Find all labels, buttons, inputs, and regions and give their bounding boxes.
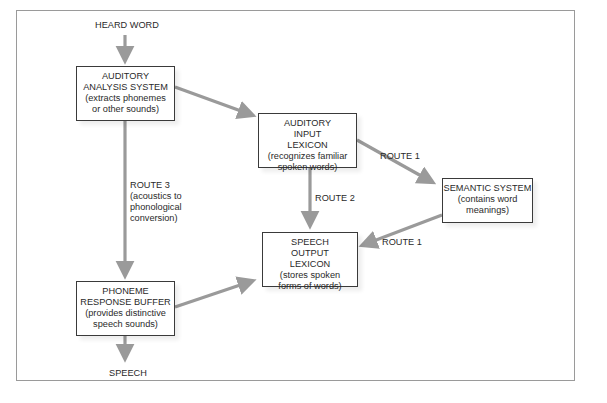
- auditory-input-lexicon-box: AUDITORY INPUT LEXICON (recognizes famil…: [258, 113, 357, 168]
- arrow-analysis-to-input-lexicon: [175, 87, 252, 115]
- speech-label: SPEECH: [109, 368, 147, 379]
- route1-lower-label: ROUTE 1: [382, 237, 422, 248]
- box-description: (extracts phonemes or other sounds): [77, 93, 174, 115]
- phoneme-response-buffer-box: PHONEME RESPONSE BUFFER (provides distin…: [76, 281, 175, 336]
- box-description: (stores spoken forms of words): [263, 270, 357, 292]
- arrow-buffer-to-output: [175, 281, 252, 307]
- semantic-system-box: SEMANTIC SYSTEM (contains word meanings): [442, 178, 533, 223]
- box-title: SEMANTIC SYSTEM: [443, 183, 532, 194]
- box-title: AUDITORY ANALYSIS SYSTEM: [77, 71, 174, 93]
- box-description: (provides distinctive speech sounds): [77, 308, 174, 330]
- route3-label: ROUTE 3 (acoustics to phonological conve…: [130, 180, 200, 224]
- box-description: (contains word meanings): [443, 194, 532, 216]
- speech-output-lexicon-box: SPEECH OUTPUT LEXICON (stores spoken for…: [262, 232, 358, 287]
- route3-title: ROUTE 3: [130, 180, 200, 191]
- box-title: SPEECH OUTPUT LEXICON: [263, 237, 357, 270]
- box-title: AUDITORY INPUT LEXICON: [259, 118, 356, 151]
- box-title: PHONEME RESPONSE BUFFER: [77, 286, 174, 308]
- route1-upper-label: ROUTE 1: [380, 151, 420, 162]
- route3-description: (acoustics to phonological conversion): [130, 191, 200, 224]
- heard-word-label: HEARD WORD: [95, 20, 159, 31]
- auditory-analysis-system-box: AUDITORY ANALYSIS SYSTEM (extracts phone…: [76, 66, 175, 121]
- route2-label: ROUTE 2: [315, 193, 355, 204]
- box-description: (recognizes familiar spoken words): [259, 151, 356, 173]
